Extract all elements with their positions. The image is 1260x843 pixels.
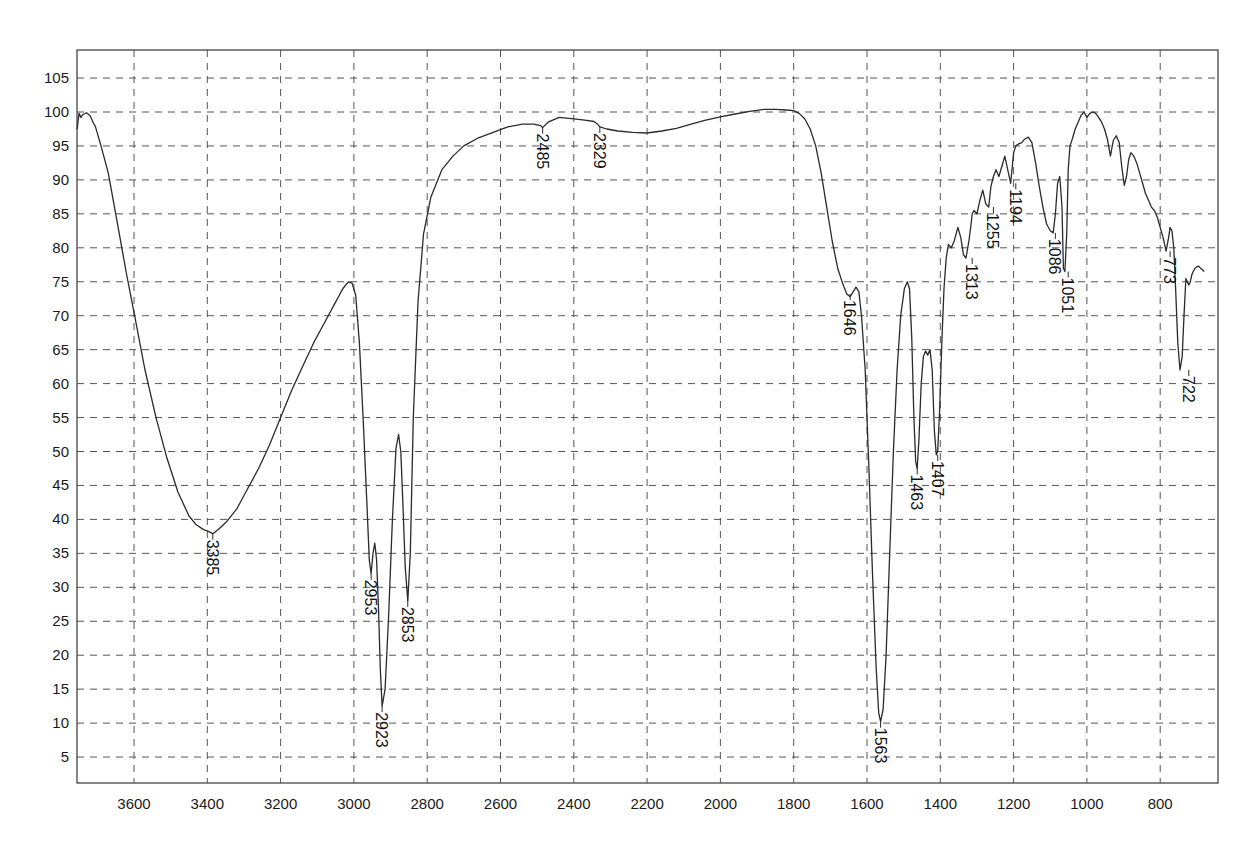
y-tick-label: 15 xyxy=(52,680,69,697)
peak-annotation: 1255 xyxy=(984,207,1001,249)
peak-annotation: 2923 xyxy=(373,706,390,748)
y-tick-label: 70 xyxy=(52,307,69,324)
x-tick-label: 1400 xyxy=(924,795,957,812)
x-tick-label: 3000 xyxy=(337,795,370,812)
y-tick-label: 90 xyxy=(52,171,69,188)
x-tick-label: 2000 xyxy=(704,795,737,812)
peak-label: 2923 xyxy=(373,712,390,748)
peak-label: 2853 xyxy=(399,607,416,643)
y-tick-label: 30 xyxy=(52,578,69,595)
x-axis-tick-labels: 3600340032003000280026002400220020001800… xyxy=(117,795,1172,812)
x-tick-label: 3200 xyxy=(264,795,297,812)
x-tick-label: 2200 xyxy=(630,795,663,812)
grid-lines xyxy=(77,50,1218,783)
y-tick-label: 65 xyxy=(52,341,69,358)
y-tick-label: 5 xyxy=(61,748,69,765)
x-tick-label: 3400 xyxy=(191,795,224,812)
x-tick-label: 1600 xyxy=(850,795,883,812)
y-tick-label: 10 xyxy=(52,714,69,731)
peak-annotation: 1086 xyxy=(1046,233,1063,275)
peak-annotation: 2329 xyxy=(591,127,608,169)
y-tick-label: 75 xyxy=(52,273,69,290)
peak-label: 3385 xyxy=(204,540,221,576)
peak-annotation: 1463 xyxy=(908,468,925,510)
peak-label: 2329 xyxy=(591,133,608,169)
peak-annotation: 2485 xyxy=(534,128,551,170)
y-tick-label: 45 xyxy=(52,476,69,493)
peak-label: 1194 xyxy=(1007,189,1024,224)
peak-label: 1086 xyxy=(1046,239,1063,275)
y-tick-label: 50 xyxy=(52,443,69,460)
y-tick-label: 35 xyxy=(52,544,69,561)
peak-label: 2953 xyxy=(362,580,379,616)
y-tick-label: 25 xyxy=(52,612,69,629)
y-tick-label: 85 xyxy=(52,205,69,222)
peak-annotation: 722 xyxy=(1180,370,1197,403)
y-tick-label: 105 xyxy=(44,69,69,86)
peak-label: 1407 xyxy=(929,461,946,497)
peak-annotation: 1407 xyxy=(929,455,946,497)
peak-label: 1255 xyxy=(984,213,1001,249)
x-tick-label: 3600 xyxy=(117,795,150,812)
peak-label: 1463 xyxy=(908,474,925,510)
peak-label: 2485 xyxy=(534,134,551,170)
peak-label: 1051 xyxy=(1059,278,1076,314)
ir-spectrum-chart: 5101520253035404550556065707580859095100… xyxy=(0,0,1260,843)
peak-label: 1563 xyxy=(872,728,889,764)
y-tick-label: 55 xyxy=(52,409,69,426)
x-tick-label: 2800 xyxy=(411,795,444,812)
peak-annotation: 1194 xyxy=(1007,183,1024,224)
x-tick-label: 1200 xyxy=(997,795,1030,812)
peak-annotation: 1313 xyxy=(963,258,980,300)
peak-annotations: 3385295329232853248523291646156314631407… xyxy=(204,127,1197,763)
peak-label: 1313 xyxy=(963,264,980,300)
x-tick-label: 1800 xyxy=(777,795,810,812)
peak-annotation: 1563 xyxy=(872,722,889,764)
peak-annotation: 1646 xyxy=(841,294,858,336)
peak-annotation: 2853 xyxy=(399,601,416,643)
peak-label: 722 xyxy=(1180,376,1197,403)
peak-label: 773 xyxy=(1161,257,1178,284)
y-axis-tick-labels: 5101520253035404550556065707580859095100… xyxy=(44,69,69,765)
x-tick-label: 1000 xyxy=(1070,795,1103,812)
y-tick-label: 80 xyxy=(52,239,69,256)
peak-annotation: 1051 xyxy=(1059,272,1076,314)
y-tick-label: 100 xyxy=(44,103,69,120)
x-tick-label: 2400 xyxy=(557,795,590,812)
peak-annotation: 3385 xyxy=(204,534,221,576)
y-tick-label: 20 xyxy=(52,646,69,663)
y-tick-label: 95 xyxy=(52,137,69,154)
x-tick-label: 2600 xyxy=(484,795,517,812)
peak-annotation: 2953 xyxy=(362,574,379,616)
peak-annotation: 773 xyxy=(1161,251,1178,284)
x-tick-label: 800 xyxy=(1148,795,1173,812)
y-tick-label: 40 xyxy=(52,510,69,527)
spectrum-curve xyxy=(77,109,1204,721)
y-tick-label: 60 xyxy=(52,375,69,392)
peak-label: 1646 xyxy=(841,300,858,336)
